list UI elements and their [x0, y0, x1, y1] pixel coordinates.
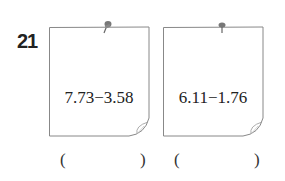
pushpin-icon — [216, 22, 228, 34]
expression: 7.73−3.58 — [49, 88, 149, 108]
expression: 6.11−1.76 — [163, 88, 263, 108]
sticky-note-1: 7.73−3.58 — [49, 26, 149, 137]
note-paper-icon — [49, 26, 151, 138]
close-paren: ) — [140, 150, 146, 170]
open-paren: ( — [60, 150, 66, 170]
close-paren: ) — [254, 150, 260, 170]
note-paper-icon — [163, 26, 265, 138]
sticky-note-2: 6.11−1.76 — [163, 26, 263, 137]
question-number: 21 — [17, 30, 37, 53]
pushpin-icon — [100, 20, 114, 34]
open-paren: ( — [174, 150, 180, 170]
